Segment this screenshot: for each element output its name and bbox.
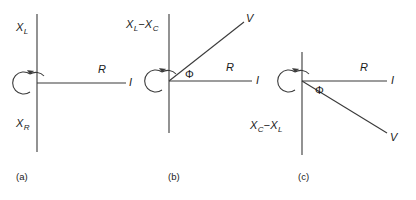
rotation-arc [278, 70, 295, 92]
label-r: R [360, 62, 368, 73]
panel-c: Φ R I XC−XL V (c) [250, 0, 416, 200]
rotation-arc [13, 72, 30, 94]
panel-caption-a: (a) [16, 172, 28, 182]
label-r: R [98, 64, 106, 75]
axis-label-xc-minus-xl: XC−XL [250, 120, 282, 131]
panel-caption-c: (c) [298, 172, 309, 182]
label-v: V [390, 132, 398, 143]
rotation-arc [145, 70, 162, 92]
label-i: I [391, 75, 394, 86]
panel-c-drawing [250, 0, 416, 200]
axis-label-xl-minus-xc: XL−XC [126, 19, 158, 30]
panel-caption-b: (b) [168, 172, 180, 182]
panel-a: XL XR R I (a) [0, 0, 140, 200]
phasor-diagram-figure: XL XR R I (a) XL−XC Φ R I V (b) [0, 0, 416, 200]
phase-angle-symbol: Φ [315, 85, 324, 96]
label-r: R [226, 62, 234, 73]
phase-angle-symbol: Φ [185, 69, 194, 80]
axis-label-xr: XR [16, 118, 30, 129]
axis-label-xl: XL [16, 22, 28, 33]
